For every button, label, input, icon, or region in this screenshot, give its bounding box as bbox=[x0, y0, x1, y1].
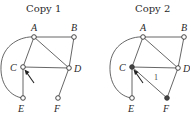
label-f: F bbox=[162, 103, 170, 114]
edge-a-d bbox=[143, 37, 178, 68]
node-c bbox=[21, 65, 26, 70]
node-d bbox=[67, 66, 72, 71]
copy-1-title: Copy 1 bbox=[26, 3, 61, 14]
label-e: E bbox=[17, 103, 24, 114]
arrowhead-icon bbox=[25, 70, 30, 76]
edge-weight-label: 1 bbox=[154, 73, 158, 82]
edge-c-d bbox=[23, 67, 69, 68]
node-c bbox=[130, 65, 135, 70]
edge-a-d bbox=[34, 37, 69, 68]
edge-a-c bbox=[23, 37, 34, 67]
node-a bbox=[141, 35, 146, 40]
label-f: F bbox=[53, 103, 61, 114]
edge-a-c bbox=[132, 37, 143, 67]
pointer-arrow bbox=[27, 73, 34, 83]
copy-2-title: Copy 2 bbox=[135, 3, 170, 14]
label-a: A bbox=[139, 22, 147, 33]
label-e: E bbox=[127, 103, 134, 114]
edge-d-f bbox=[167, 68, 178, 98]
label-c: C bbox=[119, 62, 126, 73]
label-b: B bbox=[181, 22, 187, 33]
edge-c-d bbox=[132, 67, 178, 68]
node-a bbox=[32, 35, 37, 40]
node-e bbox=[21, 96, 26, 101]
edge-d-f bbox=[58, 68, 69, 98]
node-f bbox=[56, 96, 61, 101]
node-e bbox=[130, 96, 135, 101]
label-d: D bbox=[182, 63, 190, 74]
node-f bbox=[165, 96, 170, 101]
label-a: A bbox=[30, 22, 38, 33]
label-b: B bbox=[71, 22, 77, 33]
label-d: D bbox=[73, 63, 82, 74]
pointer-arrow bbox=[136, 73, 143, 83]
label-c: C bbox=[10, 62, 17, 73]
graph-diagram: Copy 1 A B C D E F Copy 2 bbox=[0, 0, 190, 116]
copy-2-graph: Copy 2 1 A B C D E F bbox=[110, 3, 190, 114]
node-b bbox=[72, 35, 77, 40]
copy-1-graph: Copy 1 A B C D E F bbox=[1, 3, 82, 114]
node-b bbox=[182, 35, 187, 40]
node-d bbox=[176, 66, 181, 71]
